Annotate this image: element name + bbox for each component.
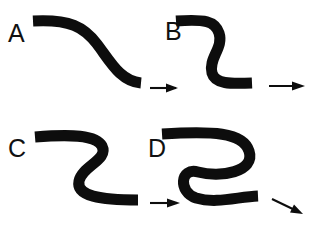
ribbon-shape-d — [162, 133, 258, 201]
ribbon-shape-a — [33, 21, 141, 83]
panel-b: B — [165, 17, 305, 91]
panel-a: A — [8, 19, 178, 93]
ribbon-shape-b — [176, 20, 252, 83]
ribbon-diagram: A B C D — [0, 0, 318, 230]
arrow-right-a-head — [166, 84, 178, 93]
ribbon-shape-c — [35, 136, 138, 200]
arrow-right-c-head — [167, 199, 180, 208]
panel-label-a: A — [8, 19, 25, 47]
arrow-right-b-head — [292, 82, 305, 91]
figure-canvas: A B C D — [0, 0, 318, 230]
arrow-down-right-d-head — [290, 205, 303, 215]
panel-label-c: C — [8, 134, 26, 162]
